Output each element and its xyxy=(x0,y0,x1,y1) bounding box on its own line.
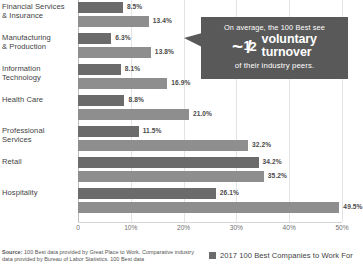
category-label-line: Retail xyxy=(2,157,74,166)
callout-emphasis: voluntary turnover xyxy=(262,33,317,59)
source-text: 100 Best data provided by Great Place to… xyxy=(2,249,194,262)
row-bars: 11.5%32.2% xyxy=(78,126,351,156)
x-tick-label: 50% xyxy=(335,224,348,231)
category-label-line: Financial Services xyxy=(2,2,74,11)
bar-value-label: 34.2% xyxy=(263,158,282,165)
callout-box: On average, the 100 Best see ~ 1 / 2 vol… xyxy=(201,17,348,79)
callout-word-turnover: turnover xyxy=(262,46,317,59)
x-axis-rule xyxy=(78,222,342,223)
bar-line: 8.5% xyxy=(78,2,351,13)
fraction-one-half: 1 / 2 xyxy=(244,37,258,56)
bar-line: 32.2% xyxy=(78,140,351,151)
bar xyxy=(78,78,167,89)
bar-line: 21.0% xyxy=(78,109,351,120)
bar xyxy=(78,64,121,75)
bar-line: 8.8% xyxy=(78,95,351,106)
bar-value-label: 11.5% xyxy=(143,127,162,134)
chart-row: Retail34.2%35.2% xyxy=(0,157,351,187)
legend: 2017 100 Best Companies to Work For xyxy=(209,251,353,260)
callout-line-3: of their industry peers. xyxy=(201,61,348,71)
row-bars: 8.8%21.0% xyxy=(78,95,351,125)
bar xyxy=(78,2,123,13)
x-tick-label: 40% xyxy=(283,224,296,231)
bar xyxy=(78,157,259,168)
bar-line: 11.5% xyxy=(78,126,351,137)
category-label: Financial Services& Insurance xyxy=(2,2,74,21)
bar xyxy=(78,171,264,182)
category-label-line: Technology xyxy=(2,73,74,82)
bar xyxy=(78,33,111,44)
bar-value-label: 8.1% xyxy=(125,65,140,72)
bar xyxy=(78,140,248,151)
chart-row: ProfessionalServices11.5%32.2% xyxy=(0,126,351,156)
bar-value-label: 32.2% xyxy=(252,141,271,148)
bar xyxy=(78,109,189,120)
bar-value-label: 35.2% xyxy=(268,172,287,179)
bar xyxy=(78,188,216,199)
bar-value-label: 26.1% xyxy=(220,189,239,196)
category-label-line: Hospitality xyxy=(2,188,74,197)
callout-line-1: On average, the 100 Best see xyxy=(201,23,348,32)
fraction-denominator: 2 xyxy=(250,37,257,56)
chart-row: Hospitality26.1%49.5% xyxy=(0,188,351,218)
row-bars: 26.1%49.5% xyxy=(78,188,351,218)
bar-value-label: 13.4% xyxy=(153,17,172,24)
bar xyxy=(78,47,151,58)
bar xyxy=(78,16,149,27)
x-tick-label: 10% xyxy=(124,224,137,231)
bar-line: 16.9% xyxy=(78,78,351,89)
category-label-line: Professional xyxy=(2,126,74,135)
bar-value-label: 16.9% xyxy=(171,79,190,86)
category-label-line: & Production xyxy=(2,42,74,51)
plot-area: Financial Services& Insurance8.5%13.4%Ma… xyxy=(0,0,351,238)
bar xyxy=(78,202,339,213)
x-tick-label: 30% xyxy=(230,224,243,231)
category-label: InformationTechnology xyxy=(2,64,74,83)
callout-line-2: ~ 1 / 2 voluntary turnover xyxy=(201,33,348,59)
category-label-line: Manufacturing xyxy=(2,33,74,42)
bar-value-label: 49.5% xyxy=(343,203,362,210)
bar xyxy=(78,95,124,106)
source-note: Source: 100 Best data provided by Great … xyxy=(2,249,198,263)
category-label: ProfessionalServices xyxy=(2,126,74,145)
bar-line: 35.2% xyxy=(78,171,351,182)
bar-line: 34.2% xyxy=(78,157,351,168)
category-label-line: & Insurance xyxy=(2,11,74,20)
category-label: Retail xyxy=(2,157,74,166)
callout-approx: ~ xyxy=(232,37,243,56)
bar-value-label: 21.0% xyxy=(193,110,212,117)
bar-value-label: 6.3% xyxy=(115,34,130,41)
x-tick-label: 20% xyxy=(177,224,190,231)
category-label: Hospitality xyxy=(2,188,74,197)
row-bars: 34.2%35.2% xyxy=(78,157,351,187)
bar-line: 26.1% xyxy=(78,188,351,199)
category-label: Health Care xyxy=(2,95,74,104)
legend-label: 2017 100 Best Companies to Work For xyxy=(220,251,353,260)
bar-value-label: 8.8% xyxy=(128,96,143,103)
source-label: Source: xyxy=(2,249,22,255)
chart-footer: Source: 100 Best data provided by Great … xyxy=(0,249,351,271)
callout-pointer-icon xyxy=(184,33,202,47)
category-label-line: Health Care xyxy=(2,95,74,104)
x-tick-label: 0 xyxy=(76,224,80,231)
category-label-line: Services xyxy=(2,135,74,144)
legend-swatch-icon xyxy=(209,252,216,259)
bar-value-label: 8.5% xyxy=(127,3,142,10)
bar xyxy=(78,126,139,137)
category-label-line: Information xyxy=(2,64,74,73)
callout-fraction: ~ 1 / 2 xyxy=(232,37,258,56)
bar-line: 49.5% xyxy=(78,202,351,213)
bar-value-label: 13.8% xyxy=(155,48,174,55)
x-axis: 010%20%30%40%50% xyxy=(0,224,351,238)
category-label: Manufacturing& Production xyxy=(2,33,74,52)
chart-row: Health Care8.8%21.0% xyxy=(0,95,351,125)
